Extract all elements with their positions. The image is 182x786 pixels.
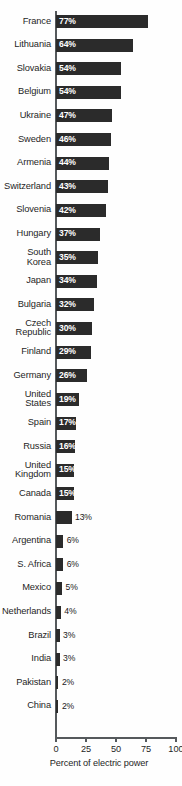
bar bbox=[56, 676, 58, 689]
category-label: Slovakia bbox=[0, 64, 51, 74]
tick-label: 100 bbox=[156, 744, 182, 754]
bar-row: Pakistan2% bbox=[0, 676, 182, 689]
bar-row: United States19% bbox=[0, 393, 182, 406]
bar-row: Slovenia42% bbox=[0, 204, 182, 217]
plot-area: France77%Lithuania64%Slovakia54%Belgium5… bbox=[0, 0, 182, 786]
tick-mark bbox=[175, 737, 177, 742]
bar-row: S. Africa6% bbox=[0, 558, 182, 571]
x-axis-title: Percent of electric power bbox=[0, 758, 182, 769]
bar-row: France77% bbox=[0, 15, 182, 28]
bar-value-label: 54% bbox=[59, 64, 76, 74]
bar-value-label: 13% bbox=[75, 513, 92, 523]
bar-row: Romania13% bbox=[0, 511, 182, 524]
bar-value-label: 42% bbox=[59, 206, 76, 216]
bar-value-label: 2% bbox=[62, 702, 74, 712]
bar-row: Ukraine47% bbox=[0, 109, 182, 122]
bar-row: Switzerland43% bbox=[0, 180, 182, 193]
category-label: Canada bbox=[0, 489, 51, 499]
category-label: Hungary bbox=[0, 229, 51, 239]
tick-mark bbox=[85, 737, 87, 742]
bar bbox=[56, 606, 61, 619]
category-label: India bbox=[0, 654, 51, 664]
bar-value-label: 30% bbox=[59, 324, 76, 334]
bar-value-label: 16% bbox=[59, 442, 76, 452]
category-label: South Korea bbox=[0, 248, 51, 267]
bar-value-label: 6% bbox=[67, 536, 79, 546]
bar-value-label: 77% bbox=[59, 17, 76, 27]
bar-value-label: 32% bbox=[59, 300, 76, 310]
category-label: Czech Republic bbox=[0, 319, 51, 338]
category-label: United States bbox=[0, 390, 51, 409]
bar-value-label: 26% bbox=[59, 371, 76, 381]
bar-value-label: 17% bbox=[59, 418, 76, 428]
bar-row: China2% bbox=[0, 700, 182, 713]
category-label: Argentina bbox=[0, 536, 51, 546]
tick-mark bbox=[145, 737, 147, 742]
bar bbox=[56, 700, 58, 713]
bar-value-label: 6% bbox=[67, 560, 79, 570]
bar-row: Brazil3% bbox=[0, 629, 182, 642]
nuclear-share-bar-chart: France77%Lithuania64%Slovakia54%Belgium5… bbox=[0, 0, 182, 786]
bar-row: South Korea35% bbox=[0, 251, 182, 264]
bar-row: Armenia44% bbox=[0, 157, 182, 170]
bar-row: Netherlands4% bbox=[0, 606, 182, 619]
bar-row: Slovakia54% bbox=[0, 62, 182, 75]
bar bbox=[56, 653, 60, 666]
bar-row: Spain17% bbox=[0, 417, 182, 430]
category-label: China bbox=[0, 701, 51, 711]
bar-value-label: 47% bbox=[59, 111, 76, 121]
bar bbox=[56, 582, 62, 595]
category-label: Mexico bbox=[0, 583, 51, 593]
bar-row: Czech Republic30% bbox=[0, 322, 182, 335]
bar-value-label: 29% bbox=[59, 347, 76, 357]
bar-row: Canada15% bbox=[0, 487, 182, 500]
bar-row: Germany26% bbox=[0, 369, 182, 382]
bar-value-label: 64% bbox=[59, 40, 76, 50]
category-label: Japan bbox=[0, 276, 51, 286]
bar-row: India3% bbox=[0, 653, 182, 666]
bar-value-label: 43% bbox=[59, 182, 76, 192]
bar-row: Lithuania64% bbox=[0, 39, 182, 52]
bar-value-label: 54% bbox=[59, 87, 76, 97]
category-label: Russia bbox=[0, 442, 51, 452]
category-label: Slovenia bbox=[0, 205, 51, 215]
category-label: Bulgaria bbox=[0, 300, 51, 310]
category-label: France bbox=[0, 17, 51, 27]
bar-value-label: 5% bbox=[66, 583, 78, 593]
bar-value-label: 4% bbox=[64, 607, 76, 617]
bar-row: Argentina6% bbox=[0, 535, 182, 548]
bar-value-label: 15% bbox=[59, 465, 76, 475]
bar bbox=[56, 558, 63, 571]
bar-value-label: 37% bbox=[59, 229, 76, 239]
bar-row: Russia16% bbox=[0, 440, 182, 453]
category-label: Brazil bbox=[0, 631, 51, 641]
x-axis: 0255075100 Percent of electric power bbox=[0, 737, 182, 786]
category-label: Switzerland bbox=[0, 182, 51, 192]
category-label: Belgium bbox=[0, 87, 51, 97]
bar-value-label: 2% bbox=[62, 678, 74, 688]
category-label: Netherlands bbox=[0, 607, 51, 617]
bar bbox=[56, 511, 72, 524]
category-label: Sweden bbox=[0, 135, 51, 145]
category-label: Armenia bbox=[0, 158, 51, 168]
bar-value-label: 15% bbox=[59, 489, 76, 499]
category-label: Pakistan bbox=[0, 678, 51, 688]
bar-row: Finland29% bbox=[0, 346, 182, 359]
category-label: Ukraine bbox=[0, 111, 51, 121]
bar-value-label: 46% bbox=[59, 135, 76, 145]
bar-value-label: 35% bbox=[59, 253, 76, 263]
bar-row: Mexico5% bbox=[0, 582, 182, 595]
category-label: Finland bbox=[0, 347, 51, 357]
category-label: S. Africa bbox=[0, 560, 51, 570]
category-label: Spain bbox=[0, 418, 51, 428]
bar-row: Hungary37% bbox=[0, 228, 182, 241]
tick-mark bbox=[55, 737, 57, 742]
category-label: Romania bbox=[0, 513, 51, 523]
bar-row: United Kingdom15% bbox=[0, 464, 182, 477]
bar-row: Bulgaria32% bbox=[0, 298, 182, 311]
x-axis-title-text: Percent of electric power bbox=[50, 758, 149, 768]
category-label: Germany bbox=[0, 371, 51, 381]
bar-row: Sweden46% bbox=[0, 133, 182, 146]
category-label: United Kingdom bbox=[0, 461, 51, 480]
bar-row: Belgium54% bbox=[0, 86, 182, 99]
